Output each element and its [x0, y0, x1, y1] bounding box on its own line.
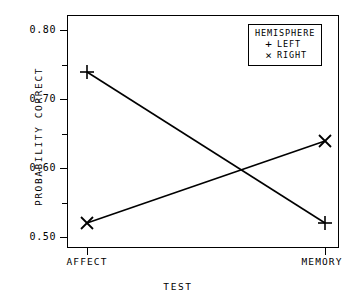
legend-item-left: + LEFT	[255, 39, 315, 50]
y-axis-label-070: 0.70	[0, 94, 56, 104]
legend-item-right: × RIGHT	[255, 50, 315, 61]
x-axis-label-affect: AFFECT	[67, 257, 108, 267]
y-axis-tick-minor	[62, 134, 68, 135]
legend-item-left-label: LEFT	[277, 39, 301, 50]
y-axis-label-080: 0.80	[0, 25, 56, 35]
legend-item-right-label: RIGHT	[277, 50, 307, 61]
y-axis-label-050: 0.50	[0, 232, 56, 242]
legend: HEMISPHERE + LEFT × RIGHT	[248, 24, 322, 66]
x-axis-tick-affect	[87, 248, 88, 255]
y-axis-tick-minor	[62, 203, 68, 204]
y-axis-tick-major	[60, 30, 68, 31]
y-axis-tick-minor	[62, 65, 68, 66]
x-axis-tick-memory	[325, 248, 326, 255]
y-axis-tick-major	[60, 99, 68, 100]
y-axis-title: PROBABILITY CORRECT	[33, 37, 44, 237]
y-axis-label-060: 0.60	[0, 163, 56, 173]
legend-title: HEMISPHERE	[255, 28, 315, 39]
cross-marker-icon: ×	[263, 50, 275, 61]
x-axis-title: TEST	[0, 281, 356, 292]
y-axis-tick-major	[60, 237, 68, 238]
y-axis-tick-major	[60, 168, 68, 169]
chart-figure: 0.80 0.70 0.60 0.50 AFFECT MEMORY TEST P…	[0, 0, 356, 302]
x-axis-label-memory: MEMORY	[302, 257, 343, 267]
